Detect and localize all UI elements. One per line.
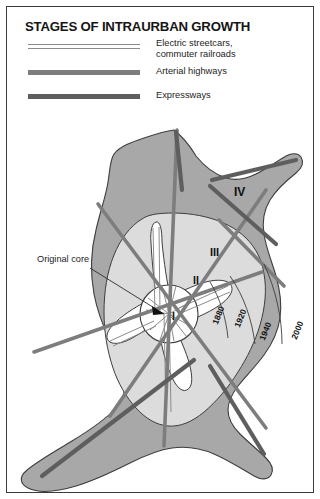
zone-label-i: I (172, 310, 175, 322)
zone-label-ii: II (193, 274, 199, 286)
original-core-label: Original core (37, 254, 89, 264)
zone-label-iii: III (210, 246, 219, 258)
zone-label-iv: IV (234, 185, 245, 199)
figure-root: STAGES OF INTRAURBAN GROWTH Electric str… (0, 0, 320, 499)
figure-frame: STAGES OF INTRAURBAN GROWTH Electric str… (6, 6, 314, 493)
